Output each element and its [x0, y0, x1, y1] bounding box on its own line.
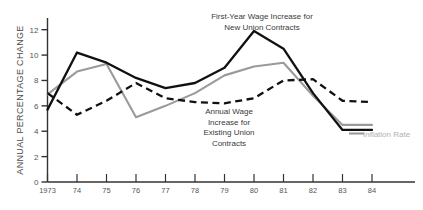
y-axis-tick-label: 2	[34, 153, 39, 162]
y-axis-tick-label: 8	[34, 76, 39, 85]
annotation-annual-wage: Annual Wage Increase for Existing Union …	[176, 107, 282, 149]
x-axis-ticks	[48, 174, 373, 182]
x-axis-tick-label: 77	[161, 186, 169, 195]
y-axis-tick-label: 4	[34, 127, 39, 136]
x-axis-tick-label: 81	[279, 186, 287, 195]
x-axis-tick-label: 83	[338, 186, 346, 195]
y-axis-tick-label: 6	[34, 102, 39, 111]
x-axis-tick-label: 75	[102, 186, 110, 195]
x-axis-tick-label: 78	[191, 186, 199, 195]
x-axis-tick-label: 74	[73, 186, 81, 195]
chart-screenshot: ANNUAL PERCENTAGE CHANGE 024681012 19737…	[0, 0, 423, 210]
x-axis-tick-label: 79	[220, 186, 228, 195]
y-tick-label-group: 024681012	[30, 26, 39, 187]
y-axis-tick-label: 12	[30, 26, 39, 35]
legend-label-inflation-rate: Inflation Rate	[363, 130, 410, 139]
x-axis-tick-label: 84	[368, 186, 376, 195]
x-axis-tick-label: 82	[309, 186, 317, 195]
y-axis-tick-label: 10	[30, 51, 39, 60]
x-tick-label-group: 19737475767778798081828384	[39, 186, 376, 195]
x-axis-tick-label: 80	[250, 186, 258, 195]
x-axis-tick-label: 76	[132, 186, 140, 195]
y-axis-ticks	[42, 30, 48, 182]
axis-lines	[42, 18, 416, 182]
x-axis-tick-label: 1973	[39, 186, 56, 195]
annotation-first-year-wage: First-Year Wage Increase for New Union C…	[176, 12, 348, 33]
